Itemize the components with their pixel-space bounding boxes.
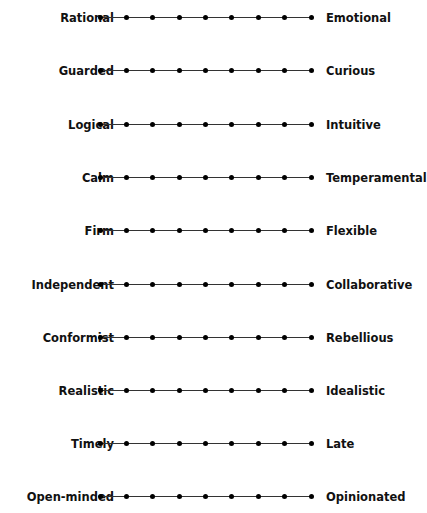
scale-point-5[interactable]	[203, 15, 208, 20]
scale-point-1[interactable]	[98, 15, 103, 20]
scale-point-1[interactable]	[98, 494, 103, 499]
scale-point-3[interactable]	[150, 228, 155, 233]
scale-point-8[interactable]	[282, 228, 287, 233]
scale-point-7[interactable]	[256, 441, 261, 446]
scale-point-1[interactable]	[98, 335, 103, 340]
scale-point-9[interactable]	[309, 15, 314, 20]
scale-point-8[interactable]	[282, 335, 287, 340]
rating-scale	[100, 284, 311, 286]
scale-point-4[interactable]	[177, 68, 182, 73]
scale-point-4[interactable]	[177, 441, 182, 446]
scale-point-3[interactable]	[150, 175, 155, 180]
scale-point-5[interactable]	[203, 175, 208, 180]
scale-point-7[interactable]	[256, 175, 261, 180]
scale-point-6[interactable]	[229, 175, 234, 180]
scale-point-3[interactable]	[150, 335, 155, 340]
scale-point-8[interactable]	[282, 494, 287, 499]
scale-point-2[interactable]	[124, 494, 129, 499]
scale-point-1[interactable]	[98, 282, 103, 287]
scale-point-5[interactable]	[203, 494, 208, 499]
scale-point-1[interactable]	[98, 175, 103, 180]
scale-point-7[interactable]	[256, 68, 261, 73]
scale-point-6[interactable]	[229, 15, 234, 20]
scale-point-7[interactable]	[256, 228, 261, 233]
right-label: Emotional	[326, 8, 391, 28]
scale-point-8[interactable]	[282, 15, 287, 20]
scale-point-9[interactable]	[309, 335, 314, 340]
scale-point-9[interactable]	[309, 228, 314, 233]
scale-point-6[interactable]	[229, 441, 234, 446]
scale-point-3[interactable]	[150, 122, 155, 127]
scale-point-2[interactable]	[124, 388, 129, 393]
scale-point-4[interactable]	[177, 175, 182, 180]
scale-point-3[interactable]	[150, 494, 155, 499]
scale-point-6[interactable]	[229, 228, 234, 233]
scale-point-2[interactable]	[124, 15, 129, 20]
right-label: Rebellious	[326, 328, 393, 348]
scale-point-5[interactable]	[203, 228, 208, 233]
scale-point-9[interactable]	[309, 68, 314, 73]
scale-point-2[interactable]	[124, 282, 129, 287]
scale-point-7[interactable]	[256, 494, 261, 499]
scale-point-5[interactable]	[203, 441, 208, 446]
scale-point-4[interactable]	[177, 282, 182, 287]
scale-point-8[interactable]	[282, 122, 287, 127]
scale-point-9[interactable]	[309, 494, 314, 499]
scale-point-8[interactable]	[282, 441, 287, 446]
scale-point-5[interactable]	[203, 388, 208, 393]
scale-point-3[interactable]	[150, 15, 155, 20]
scale-point-7[interactable]	[256, 335, 261, 340]
scale-point-2[interactable]	[124, 68, 129, 73]
scale-point-6[interactable]	[229, 388, 234, 393]
scale-point-2[interactable]	[124, 122, 129, 127]
scale-point-6[interactable]	[229, 68, 234, 73]
scale-point-5[interactable]	[203, 68, 208, 73]
scale-point-4[interactable]	[177, 228, 182, 233]
scale-point-7[interactable]	[256, 15, 261, 20]
scale-point-6[interactable]	[229, 494, 234, 499]
scale-row-realistic-idealistic: Realistic Idealistic	[0, 381, 421, 401]
scale-point-7[interactable]	[256, 388, 261, 393]
scale-point-3[interactable]	[150, 282, 155, 287]
scale-point-5[interactable]	[203, 335, 208, 340]
scale-point-1[interactable]	[98, 68, 103, 73]
scale-point-4[interactable]	[177, 122, 182, 127]
scale-point-2[interactable]	[124, 335, 129, 340]
scale-point-9[interactable]	[309, 388, 314, 393]
scale-point-7[interactable]	[256, 122, 261, 127]
scale-row-logical-intuitive: Logical Intuitive	[0, 115, 421, 135]
scale-point-1[interactable]	[98, 441, 103, 446]
scale-point-3[interactable]	[150, 388, 155, 393]
right-label: Flexible	[326, 221, 377, 241]
scale-point-4[interactable]	[177, 335, 182, 340]
scale-point-7[interactable]	[256, 282, 261, 287]
scale-point-9[interactable]	[309, 175, 314, 180]
scale-point-1[interactable]	[98, 122, 103, 127]
scale-row-timely-late: Timely Late	[0, 434, 421, 454]
scale-point-5[interactable]	[203, 282, 208, 287]
scale-point-8[interactable]	[282, 282, 287, 287]
scale-point-1[interactable]	[98, 388, 103, 393]
scale-point-2[interactable]	[124, 441, 129, 446]
scale-point-4[interactable]	[177, 15, 182, 20]
scale-point-8[interactable]	[282, 68, 287, 73]
scale-point-4[interactable]	[177, 494, 182, 499]
scale-point-5[interactable]	[203, 122, 208, 127]
scale-row-rational-emotional: Rational Emotional	[0, 8, 421, 28]
rating-scale	[100, 390, 311, 392]
scale-point-2[interactable]	[124, 228, 129, 233]
scale-point-4[interactable]	[177, 388, 182, 393]
scale-point-8[interactable]	[282, 175, 287, 180]
scale-point-6[interactable]	[229, 335, 234, 340]
scale-point-6[interactable]	[229, 122, 234, 127]
scale-point-1[interactable]	[98, 228, 103, 233]
scale-point-9[interactable]	[309, 441, 314, 446]
scale-point-9[interactable]	[309, 282, 314, 287]
rating-scale	[100, 124, 311, 126]
scale-point-6[interactable]	[229, 282, 234, 287]
scale-point-3[interactable]	[150, 68, 155, 73]
scale-point-3[interactable]	[150, 441, 155, 446]
scale-point-2[interactable]	[124, 175, 129, 180]
scale-point-9[interactable]	[309, 122, 314, 127]
scale-point-8[interactable]	[282, 388, 287, 393]
